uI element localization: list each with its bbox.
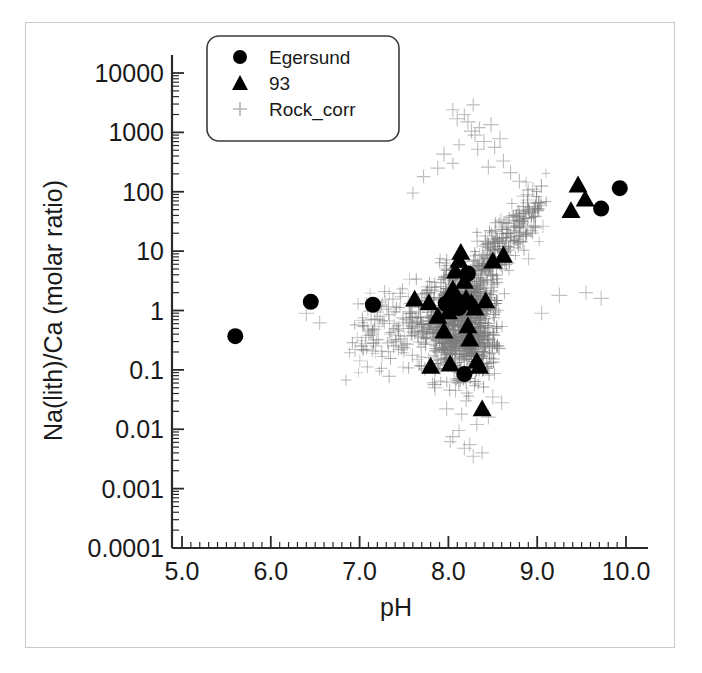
circle-marker-icon bbox=[593, 201, 609, 217]
plus-marker-icon bbox=[471, 142, 485, 156]
plus-marker-icon bbox=[534, 237, 544, 247]
plus-marker-icon bbox=[449, 111, 465, 127]
plus-marker-icon bbox=[470, 418, 484, 432]
plus-marker-icon bbox=[453, 424, 465, 436]
y-tick-label: 0.0001 bbox=[88, 534, 164, 562]
x-tick-label: 10.0 bbox=[602, 557, 651, 585]
plus-marker-icon bbox=[444, 435, 456, 447]
y-tick-label: 0.1 bbox=[129, 356, 164, 384]
plus-marker-icon bbox=[496, 154, 510, 168]
circle-marker-icon bbox=[365, 297, 381, 313]
legend-item-label[interactable]: Egersund bbox=[269, 47, 350, 68]
plus-marker-icon bbox=[436, 147, 451, 162]
plus-marker-icon bbox=[594, 291, 609, 306]
y-tick-label: 1 bbox=[150, 297, 164, 325]
plus-marker-icon bbox=[460, 114, 475, 129]
plus-marker-icon bbox=[431, 161, 445, 175]
plus-marker-icon bbox=[466, 449, 480, 463]
plus-marker-icon bbox=[389, 318, 399, 328]
plus-marker-icon bbox=[406, 187, 419, 200]
plus-marker-icon bbox=[416, 342, 426, 352]
plus-marker-icon bbox=[499, 288, 510, 299]
legend-item-label[interactable]: Rock_corr bbox=[269, 99, 356, 121]
circle-marker-icon bbox=[227, 328, 243, 344]
plus-marker-icon bbox=[476, 446, 489, 459]
plus-marker-icon bbox=[341, 375, 352, 386]
plus-marker-icon bbox=[463, 391, 474, 402]
plus-marker-icon bbox=[527, 227, 539, 239]
plus-marker-icon bbox=[521, 177, 532, 188]
plus-marker-icon bbox=[483, 117, 498, 132]
plus-marker-icon bbox=[447, 157, 459, 169]
plus-marker-icon bbox=[579, 286, 593, 300]
y-tick-label: 100 bbox=[122, 178, 164, 206]
plus-marker-icon bbox=[467, 98, 480, 111]
plus-marker-icon bbox=[435, 254, 445, 264]
plus-marker-icon bbox=[384, 352, 397, 365]
x-axis-title: pH bbox=[380, 593, 412, 621]
plus-marker-icon bbox=[375, 362, 387, 374]
plus-marker-icon bbox=[453, 139, 465, 151]
plus-marker-icon bbox=[536, 220, 549, 233]
plus-marker-icon bbox=[481, 160, 496, 175]
plus-marker-icon bbox=[494, 395, 509, 410]
plus-marker-icon bbox=[461, 387, 473, 399]
plus-marker-icon bbox=[464, 124, 479, 139]
plus-marker-icon bbox=[403, 362, 415, 374]
plus-marker-icon bbox=[403, 273, 416, 286]
plus-marker-icon bbox=[427, 377, 438, 388]
plus-marker-icon bbox=[551, 287, 567, 303]
plus-marker-icon bbox=[455, 407, 468, 420]
y-axis-title: Na(lith)/Ca (molar ratio) bbox=[39, 180, 67, 441]
plus-marker-icon bbox=[534, 306, 549, 321]
x-tick-label: 6.0 bbox=[253, 557, 288, 585]
plus-marker-icon bbox=[376, 346, 387, 357]
plus-marker-icon bbox=[361, 361, 373, 373]
plus-marker-icon bbox=[354, 368, 364, 378]
y-tick-label: 0.001 bbox=[101, 475, 164, 503]
plus-marker-icon bbox=[513, 243, 523, 253]
plus-marker-icon bbox=[391, 307, 401, 317]
circle-marker-icon bbox=[612, 180, 628, 196]
plus-marker-icon bbox=[496, 321, 507, 332]
plus-marker-icon bbox=[365, 288, 375, 298]
plus-marker-icon bbox=[417, 170, 430, 183]
plus-marker-icon bbox=[395, 341, 408, 354]
y-tick-label: 0.01 bbox=[115, 415, 164, 443]
plus-marker-icon bbox=[357, 313, 367, 323]
plus-marker-icon bbox=[488, 367, 501, 380]
x-tick-label: 8.0 bbox=[431, 557, 466, 585]
plus-marker-icon bbox=[439, 402, 454, 417]
triangle-marker-icon bbox=[569, 175, 588, 192]
plus-marker-icon bbox=[503, 165, 518, 180]
legend-item-label[interactable]: 93 bbox=[269, 73, 290, 94]
plus-marker-icon bbox=[350, 320, 359, 329]
y-tick-label: 10 bbox=[136, 237, 164, 265]
plus-marker-icon bbox=[382, 370, 396, 384]
triangle-marker-icon bbox=[473, 399, 492, 416]
circle-marker-icon bbox=[233, 50, 247, 64]
scatter-plot[interactable]: 0.00010.0010.010.11101001000100005.06.07… bbox=[0, 0, 702, 673]
plus-marker-icon bbox=[512, 174, 527, 189]
y-tick-label: 10000 bbox=[94, 59, 164, 87]
plus-marker-icon bbox=[416, 352, 426, 362]
plus-marker-icon bbox=[441, 377, 452, 388]
x-tick-label: 7.0 bbox=[342, 557, 377, 585]
plus-marker-icon bbox=[431, 345, 441, 355]
x-tick-label: 9.0 bbox=[520, 557, 555, 585]
y-tick-label: 1000 bbox=[108, 118, 164, 146]
plus-marker-icon bbox=[394, 290, 406, 302]
plus-marker-icon bbox=[506, 198, 517, 209]
plus-marker-icon bbox=[397, 361, 409, 373]
circle-marker-icon bbox=[303, 294, 319, 310]
plus-marker-icon bbox=[541, 169, 550, 178]
chart-stage: 0.00010.0010.010.11101001000100005.06.07… bbox=[0, 0, 702, 673]
plus-marker-icon bbox=[478, 381, 490, 393]
plus-marker-icon bbox=[313, 316, 327, 330]
plus-marker-icon bbox=[375, 366, 384, 375]
triangle-marker-icon bbox=[451, 243, 470, 260]
plus-marker-icon bbox=[460, 395, 472, 407]
x-tick-label: 5.0 bbox=[165, 557, 200, 585]
plus-marker-icon bbox=[425, 277, 435, 287]
plus-marker-icon bbox=[370, 348, 380, 358]
